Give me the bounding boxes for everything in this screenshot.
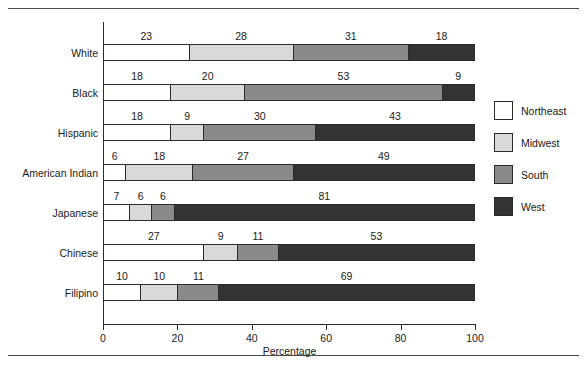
stacked-bar: 1820539 <box>103 84 475 101</box>
segment-value-label: 18 <box>131 110 143 122</box>
legend-label: West <box>521 201 545 213</box>
bar-segment-northeast: 7 <box>103 204 129 221</box>
x-axis-tick-label: 40 <box>246 332 258 344</box>
x-axis-tick <box>475 324 476 330</box>
bar-segment-south: 31 <box>293 44 408 61</box>
bar-segment-west: 53 <box>278 244 475 261</box>
bar-segment-south: 30 <box>203 124 315 141</box>
x-axis-tick-label: 20 <box>172 332 184 344</box>
segment-value-label: 43 <box>389 110 401 122</box>
segment-value-label: 69 <box>341 270 353 282</box>
segment-value-label: 11 <box>193 270 204 282</box>
segment-value-label: 27 <box>148 230 160 242</box>
x-axis-tick <box>401 324 402 330</box>
bar-segment-west: 49 <box>293 164 475 181</box>
bar-segment-south: 6 <box>151 204 173 221</box>
segment-value-label: 6 <box>112 150 118 162</box>
segment-value-label: 49 <box>378 150 390 162</box>
segment-value-label: 27 <box>237 150 249 162</box>
stacked-bar: 2791153 <box>103 244 475 261</box>
segment-value-label: 28 <box>235 30 247 42</box>
bar-segment-south: 11 <box>237 244 278 261</box>
segment-value-label: 6 <box>160 190 166 202</box>
segment-value-label: 18 <box>153 150 165 162</box>
x-axis-tick-label: 0 <box>100 332 106 344</box>
x-axis-tick <box>177 324 178 330</box>
segment-value-label: 9 <box>218 230 224 242</box>
x-axis-tick-label: 60 <box>320 332 332 344</box>
bar-segment-midwest: 20 <box>170 84 244 101</box>
bar-segment-west: 81 <box>174 204 475 221</box>
x-axis-tick-label: 80 <box>395 332 407 344</box>
legend-label: Midwest <box>521 137 560 149</box>
segment-value-label: 10 <box>116 270 128 282</box>
bar-segment-midwest: 9 <box>170 124 203 141</box>
segment-value-label: 6 <box>138 190 144 202</box>
segment-value-label: 9 <box>455 70 461 82</box>
stacked-bar-chart-figure: White23283118Black1820539Hispanic1893043… <box>0 0 587 373</box>
top-divider-rule <box>8 8 579 9</box>
bar-segment-midwest: 18 <box>125 164 192 181</box>
legend-label: South <box>521 169 548 181</box>
x-axis-line <box>103 324 476 325</box>
bar-segment-west: 9 <box>442 84 475 101</box>
bar-segment-northeast: 27 <box>103 244 203 261</box>
bar-segment-west: 43 <box>315 124 475 141</box>
bar-segment-northeast: 6 <box>103 164 125 181</box>
category-label: American Indian <box>3 167 98 179</box>
stacked-bar: 10101169 <box>103 284 475 301</box>
legend-item-northeast: Northeast <box>494 98 584 123</box>
bar-segment-midwest: 6 <box>129 204 151 221</box>
legend-item-midwest: Midwest <box>494 130 584 155</box>
segment-value-label: 53 <box>371 230 383 242</box>
x-axis-tick <box>252 324 253 330</box>
x-axis-title: Percentage <box>103 345 476 357</box>
bar-segment-west: 18 <box>408 44 475 61</box>
category-label: Chinese <box>3 247 98 259</box>
category-label: White <box>3 47 98 59</box>
x-axis-tick <box>326 324 327 330</box>
legend-swatch-northeast <box>494 101 513 120</box>
x-axis-tick <box>103 324 104 330</box>
bar-segment-south: 53 <box>244 84 441 101</box>
stacked-bar: 76681 <box>103 204 475 221</box>
legend: NortheastMidwestSouthWest <box>494 98 584 226</box>
legend-swatch-midwest <box>494 133 513 152</box>
segment-value-label: 10 <box>153 270 165 282</box>
segment-value-label: 81 <box>318 190 330 202</box>
segment-value-label: 20 <box>202 70 214 82</box>
stacked-bar: 1893043 <box>103 124 475 141</box>
bar-segment-west: 69 <box>218 284 475 301</box>
segment-value-label: 30 <box>254 110 266 122</box>
bar-segment-midwest: 10 <box>140 284 177 301</box>
category-label: Japanese <box>3 207 98 219</box>
plot-area: White23283118Black1820539Hispanic1893043… <box>103 22 475 322</box>
bar-segment-northeast: 18 <box>103 84 170 101</box>
bar-segment-midwest: 28 <box>189 44 293 61</box>
legend-item-west: West <box>494 194 584 219</box>
bar-segment-south: 11 <box>177 284 218 301</box>
stacked-bar: 6182749 <box>103 164 475 181</box>
x-axis-tick-label: 100 <box>466 332 484 344</box>
legend-swatch-west <box>494 197 513 216</box>
legend-item-south: South <box>494 162 584 187</box>
segment-value-label: 53 <box>338 70 350 82</box>
segment-value-label: 9 <box>184 110 190 122</box>
bar-segment-midwest: 9 <box>203 244 236 261</box>
category-label: Black <box>3 87 98 99</box>
category-label: Filipino <box>3 287 98 299</box>
legend-label: Northeast <box>521 105 567 117</box>
bar-segment-northeast: 10 <box>103 284 140 301</box>
bar-segment-northeast: 18 <box>103 124 170 141</box>
stacked-bar: 23283118 <box>103 44 475 61</box>
segment-value-label: 23 <box>140 30 152 42</box>
segment-value-label: 18 <box>436 30 448 42</box>
category-label: Hispanic <box>3 127 98 139</box>
segment-value-label: 18 <box>131 70 143 82</box>
segment-value-label: 7 <box>114 190 120 202</box>
legend-swatch-south <box>494 165 513 184</box>
bar-segment-south: 27 <box>192 164 292 181</box>
bar-segment-northeast: 23 <box>103 44 189 61</box>
segment-value-label: 11 <box>252 230 263 242</box>
segment-value-label: 31 <box>345 30 357 42</box>
